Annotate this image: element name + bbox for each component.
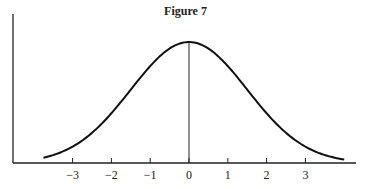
x-tick-label: 2 — [264, 168, 270, 182]
chart-canvas: −3−2−10123 — [0, 0, 371, 189]
density-curve — [44, 42, 345, 160]
x-tick-label: 3 — [302, 168, 308, 182]
x-tick-label: −2 — [105, 168, 118, 182]
x-tick-label: 1 — [225, 168, 231, 182]
x-tick-label: −3 — [66, 168, 79, 182]
x-ticks: −3−2−10123 — [66, 158, 308, 182]
x-tick-label: −1 — [144, 168, 157, 182]
x-tick-label: 0 — [186, 168, 192, 182]
